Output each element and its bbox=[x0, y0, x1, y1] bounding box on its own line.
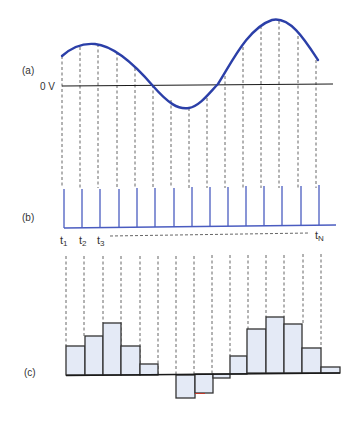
sampling-pulses bbox=[64, 185, 319, 228]
bar-12 bbox=[266, 317, 284, 373]
analog-waveform bbox=[62, 20, 318, 109]
bar-1 bbox=[66, 346, 85, 375]
panel-c-label: (c) bbox=[24, 368, 36, 378]
zero-volt-axis bbox=[62, 84, 333, 86]
bar-13 bbox=[284, 324, 302, 373]
bar-10 bbox=[230, 356, 247, 374]
bar-2 bbox=[85, 336, 103, 375]
sampling-diagram bbox=[0, 0, 359, 422]
bar-3 bbox=[103, 323, 121, 375]
bar-15 bbox=[321, 367, 340, 373]
bar-7 bbox=[176, 375, 195, 398]
panel-a-label: (a) bbox=[22, 66, 34, 76]
bar-5 bbox=[140, 364, 158, 375]
time-label-t2: t2 bbox=[79, 235, 87, 248]
pulse-baseline bbox=[64, 225, 336, 228]
zero-volt-label: 0 V bbox=[40, 82, 55, 92]
bar-4 bbox=[121, 346, 140, 375]
bar-14 bbox=[302, 348, 321, 373]
time-label-tN: tN bbox=[315, 230, 324, 243]
time-label-t3: t3 bbox=[97, 235, 105, 248]
quantized-bars bbox=[66, 317, 340, 398]
bar-8 bbox=[195, 374, 213, 393]
time-ellipsis-line bbox=[110, 233, 310, 236]
panel-b-label: (b) bbox=[22, 213, 34, 223]
time-label-t1: t1 bbox=[60, 235, 68, 248]
bar-11 bbox=[247, 329, 266, 373]
